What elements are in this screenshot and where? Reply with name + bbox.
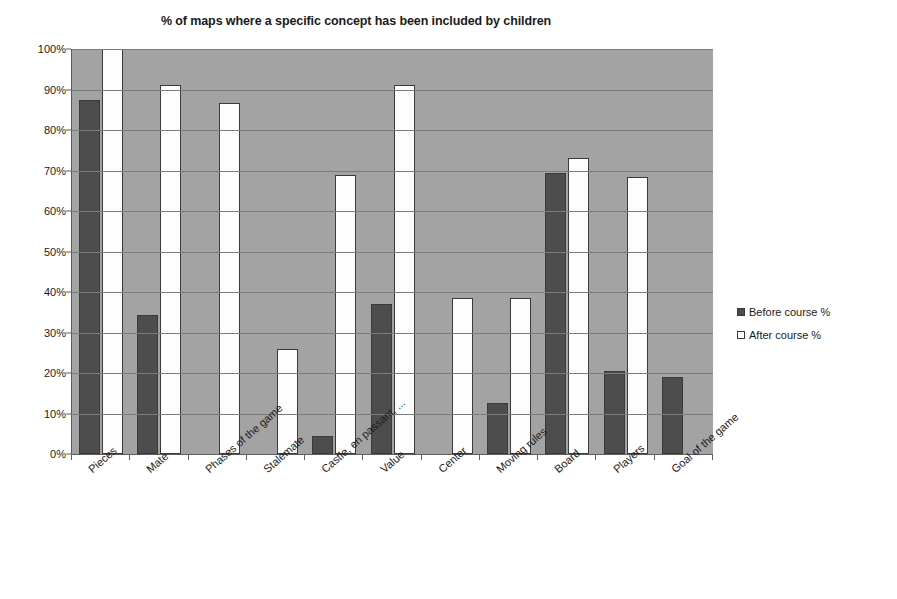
y-axis-tick-label: 60%	[44, 205, 66, 217]
y-axis: 0%10%20%30%40%50%60%70%80%90%100%	[0, 49, 66, 454]
gridline	[72, 211, 713, 212]
gridline	[72, 130, 713, 131]
gridline	[72, 171, 713, 172]
bar-after	[160, 85, 181, 454]
bar-before	[487, 403, 508, 454]
y-axis-tick-label: 100%	[38, 43, 66, 55]
bar-after	[510, 298, 531, 454]
legend-swatch-before	[737, 308, 745, 316]
bar-before	[545, 173, 566, 454]
legend-swatch-after	[737, 331, 745, 339]
bar-after	[219, 103, 240, 454]
y-axis-tick-label: 10%	[44, 408, 66, 420]
gridline	[72, 90, 713, 91]
gridline	[72, 292, 713, 293]
x-axis-category-label: Mate	[144, 450, 170, 475]
legend-item: Before course %	[737, 306, 887, 318]
y-axis-tick-label: 30%	[44, 327, 66, 339]
plot-area	[71, 49, 713, 455]
bar-before	[312, 436, 333, 454]
gridline	[72, 252, 713, 253]
bar-after	[335, 175, 356, 454]
chart-title: % of maps where a specific concept has b…	[0, 14, 712, 28]
legend-label: Before course %	[749, 306, 830, 318]
bar-chart: % of maps where a specific concept has b…	[0, 0, 897, 599]
legend-item: After course %	[737, 329, 887, 341]
gridline	[72, 333, 713, 334]
y-axis-tick-label: 50%	[44, 246, 66, 258]
gridline	[72, 373, 713, 374]
chart-legend: Before course %After course %	[737, 306, 887, 352]
y-axis-tick-label: 70%	[44, 165, 66, 177]
x-axis-labels: PiecesMatePhases of the gameStalemateCas…	[0, 454, 897, 599]
bar-before	[137, 315, 158, 454]
bar-after	[568, 158, 589, 454]
bar-after	[627, 177, 648, 454]
bar-before	[662, 377, 683, 454]
y-axis-tick-label: 90%	[44, 84, 66, 96]
bar-before	[604, 371, 625, 454]
y-axis-tick-label: 20%	[44, 367, 66, 379]
legend-label: After course %	[749, 329, 821, 341]
bar-before	[79, 100, 100, 454]
bar-after	[452, 298, 473, 454]
y-axis-tick-label: 80%	[44, 124, 66, 136]
gridline	[72, 49, 713, 50]
y-axis-tick-label: 40%	[44, 286, 66, 298]
